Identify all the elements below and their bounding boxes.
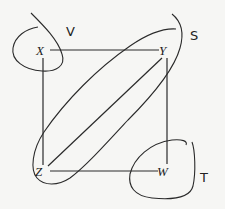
node-w-label: W xyxy=(157,164,169,179)
node-z-label: Z xyxy=(35,164,43,179)
open-set-diagram: X Y Z W V S T xyxy=(0,0,225,209)
node-x-label: X xyxy=(35,43,45,58)
region-t-label: T xyxy=(199,170,208,185)
region-s-label: S xyxy=(190,28,198,43)
edge-z-y xyxy=(48,58,162,166)
node-y-label: Y xyxy=(159,43,168,58)
region-v-label: V xyxy=(66,24,75,39)
